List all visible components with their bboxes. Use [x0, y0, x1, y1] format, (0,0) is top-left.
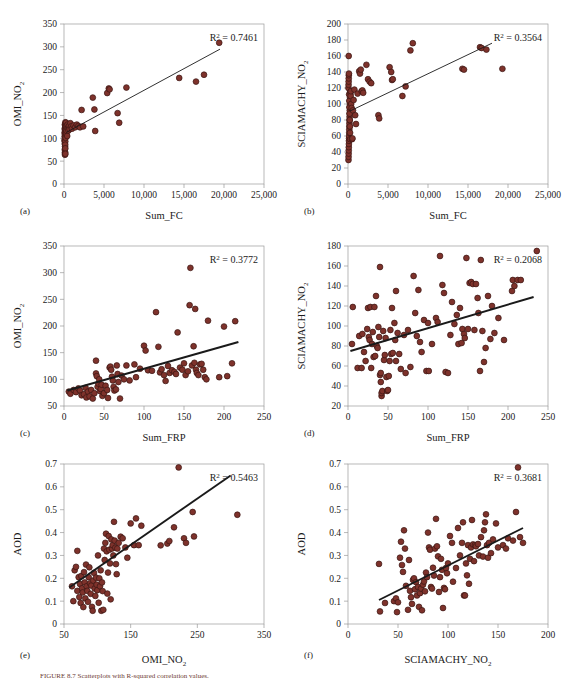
scatter-plot-e: 00.10.20.30.40.50.60.750150250350R2 = 0.…	[8, 450, 280, 666]
y-axis-title-e: AOD	[12, 532, 23, 555]
scatter-plot-b: 02040608010012014016018020005,00010,0001…	[292, 10, 564, 222]
data-point	[478, 534, 484, 540]
data-point	[96, 600, 102, 606]
scatter-plot-c: 50100150200250300350050100150200250R2 = …	[8, 232, 280, 444]
data-point	[395, 330, 401, 336]
data-point	[436, 589, 442, 595]
x-tick-label-a: 20,000	[211, 190, 237, 200]
x-tick-label-e: 350	[257, 630, 272, 640]
data-point	[196, 372, 202, 378]
data-point	[347, 130, 353, 136]
y-tick-label-c: 100	[43, 375, 58, 385]
y-tick-label-f: 0	[336, 619, 341, 629]
x-tick-label-f: 100	[441, 630, 456, 640]
data-point	[360, 90, 366, 96]
y-tick-label-c: 250	[43, 295, 58, 305]
data-point	[376, 116, 382, 122]
data-point	[493, 521, 499, 527]
y-tick-label-d: 180	[327, 241, 342, 251]
y-tick-label-c: 50	[48, 401, 58, 411]
data-point	[501, 337, 507, 343]
data-point	[478, 257, 484, 263]
data-point	[450, 579, 456, 585]
data-point	[234, 512, 240, 518]
data-point	[376, 334, 382, 340]
y-tick-label-b: 0	[336, 179, 341, 189]
data-point	[127, 378, 133, 384]
data-point	[405, 327, 411, 333]
data-point	[161, 372, 167, 378]
data-point	[113, 561, 119, 567]
data-point	[370, 329, 376, 335]
data-point	[192, 306, 198, 312]
data-point	[437, 574, 443, 580]
r-squared-label-f: R2 = 0.3681	[494, 472, 542, 484]
data-point	[462, 593, 468, 599]
data-point	[429, 586, 435, 592]
data-point	[193, 79, 199, 85]
data-point	[388, 69, 394, 75]
data-point	[380, 328, 386, 334]
data-point	[205, 318, 211, 324]
data-point	[121, 376, 127, 382]
data-point	[482, 519, 488, 525]
y-tick-label-f: 0.4	[329, 528, 341, 538]
x-tick-label-a: 0	[62, 190, 67, 200]
y-tick-label-a: 350	[43, 19, 58, 29]
data-point	[471, 558, 477, 564]
y-tick-label-d: 40	[332, 381, 342, 391]
data-point	[350, 304, 356, 310]
data-point	[104, 387, 110, 393]
panel-label-f: (f)	[304, 650, 313, 660]
x-tick-label-a: 15,000	[171, 190, 197, 200]
y-tick-label-f: 0.1	[329, 597, 341, 607]
data-point	[409, 601, 415, 607]
data-point	[466, 581, 472, 587]
data-point	[349, 341, 355, 347]
trend-line-a	[66, 49, 220, 132]
y-tick-label-d: 160	[327, 261, 342, 271]
x-tick-label-d: 250	[541, 412, 556, 422]
x-tick-label-d: 0	[346, 412, 351, 422]
data-point	[90, 608, 96, 614]
data-point	[114, 546, 120, 552]
y-tick-label-f: 0.5	[329, 505, 341, 515]
data-point	[387, 358, 393, 364]
data-point	[92, 593, 98, 599]
x-tick-label-b: 25,000	[535, 190, 561, 200]
y-tick-label-b: 80	[332, 115, 342, 125]
data-point	[114, 363, 120, 369]
data-point	[469, 517, 475, 523]
data-point	[108, 596, 114, 602]
data-point	[73, 564, 79, 570]
data-point	[136, 542, 142, 548]
data-point	[171, 524, 177, 530]
plot-frame-b	[348, 24, 548, 184]
x-axis-title-e: OMI_NO2	[142, 654, 187, 666]
panel-e: 00.10.20.30.40.50.60.750150250350R2 = 0.…	[8, 450, 280, 666]
data-point	[448, 332, 454, 338]
data-point	[353, 121, 359, 127]
r-squared-label-c: R2 = 0.3772	[210, 254, 258, 266]
y-tick-label-b: 100	[327, 99, 342, 109]
data-point	[92, 390, 98, 396]
y-tick-label-b: 180	[327, 35, 342, 45]
data-point	[111, 519, 117, 525]
data-point	[460, 519, 466, 525]
data-point	[453, 565, 459, 571]
data-point	[385, 387, 391, 393]
x-tick-label-c: 100	[137, 412, 152, 422]
data-point	[390, 350, 396, 356]
x-tick-label-b: 5,000	[377, 190, 399, 200]
panel-c: 50100150200250300350050100150200250R2 = …	[8, 232, 280, 444]
figure-caption: FIGURE 8.7 Scatterplots with R-squared c…	[40, 672, 540, 680]
trend-line-b	[350, 43, 492, 111]
data-point	[124, 85, 130, 91]
data-point	[447, 533, 453, 539]
x-tick-label-a: 25,000	[251, 190, 277, 200]
data-point	[402, 546, 408, 552]
data-point	[444, 570, 450, 576]
data-point	[115, 110, 121, 116]
data-point	[224, 373, 230, 379]
data-point	[346, 71, 352, 77]
